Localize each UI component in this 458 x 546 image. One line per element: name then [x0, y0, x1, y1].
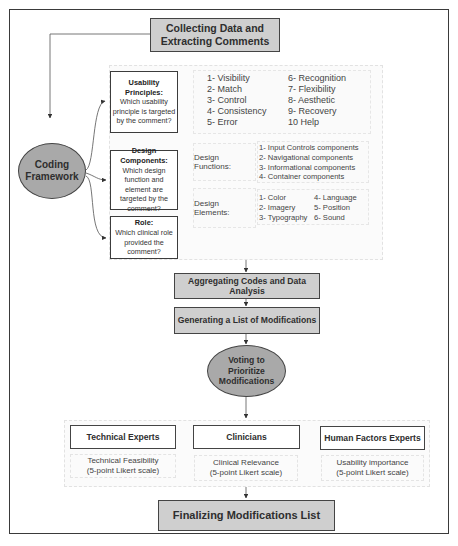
- voter-human-factors-criterion: Usability importance (5-point Likert sca…: [321, 455, 424, 481]
- voting-node: Voting to Prioritize Modifications: [207, 345, 286, 397]
- usability-principles-col2: 6- Recognition 7- Flexibility 8- Aesthet…: [288, 73, 368, 128]
- principle-item: 8- Aesthetic: [288, 95, 368, 106]
- role-title: Role:: [111, 218, 177, 228]
- principle-item: 9- Recovery: [288, 106, 368, 117]
- usability-principles-question: Which usability principle is targeted by…: [111, 97, 177, 126]
- design-function-item: 3- Informational components: [259, 163, 368, 173]
- step-collecting-data-label: Collecting Data and Extracting Comments: [151, 22, 279, 48]
- design-functions-label-box: Design Functions:: [193, 143, 256, 181]
- voter-clinicians: Clinicians: [193, 425, 300, 449]
- design-element-item: 5- Position: [314, 203, 369, 213]
- step-finalizing-modifications: Finalizing Modifications List: [158, 500, 335, 531]
- voter-human-factors-experts: Human Factors Experts: [320, 426, 425, 450]
- usability-principles-title: Usability Principles:: [111, 78, 177, 97]
- voter-title: Human Factors Experts: [324, 433, 420, 443]
- step-generating-modifications-label: Generating a List of Modifications: [178, 314, 316, 327]
- voter-title: Technical Experts: [87, 432, 160, 442]
- usability-principles-box: Usability Principles: Which usability pr…: [110, 71, 178, 133]
- voter-scale: (5-point Likert scale): [336, 468, 408, 479]
- voter-criterion: Usability importance: [336, 458, 408, 469]
- design-elements-col1: 1- Color 2- Imagery 3- Typography: [259, 193, 314, 222]
- design-components-box: Design Components: Which design function…: [110, 150, 178, 210]
- principle-item: 5- Error: [207, 117, 287, 128]
- principle-item: 7- Flexibility: [288, 84, 368, 95]
- design-element-item: 1- Color: [259, 193, 314, 203]
- voter-technical-criterion: Technical Feasibility (5-point Likert sc…: [70, 454, 176, 478]
- principle-item: 4- Consistency: [207, 106, 287, 117]
- principle-item: 6- Recognition: [288, 73, 368, 84]
- role-box: Role: Which clinical role provided the c…: [110, 216, 178, 259]
- coding-framework-node: Coding Framework: [18, 143, 86, 199]
- principle-item: 2- Match: [207, 84, 287, 95]
- design-element-item: 3- Typography: [259, 213, 314, 223]
- design-element-item: 2- Imagery: [259, 203, 314, 213]
- design-element-item: 4- Language: [314, 193, 369, 203]
- principle-item: 10 Help: [288, 117, 368, 128]
- principle-item: 1- Visibility: [207, 73, 287, 84]
- design-elements-label: Design Elements:: [194, 199, 255, 217]
- voter-technical-experts: Technical Experts: [70, 425, 176, 449]
- design-elements-col2: 4- Language 5- Position 6- Sound: [314, 193, 369, 222]
- design-function-item: 1- Input Controls components: [259, 143, 368, 153]
- voter-scale: (5-point Likert scale): [87, 466, 159, 477]
- principle-item: 3- Control: [207, 95, 287, 106]
- step-collecting-data: Collecting Data and Extracting Comments: [150, 18, 280, 52]
- design-element-item: 6- Sound: [314, 213, 369, 223]
- coding-framework-label: Coding Framework: [24, 159, 80, 184]
- design-function-item: 2- Navigational components: [259, 153, 368, 163]
- voter-title: Clinicians: [226, 432, 267, 442]
- step-aggregating-codes-label: Aggregating Codes and Data Analysis: [175, 276, 319, 297]
- voting-label: Voting to Prioritize Modifications: [217, 355, 277, 387]
- voter-scale: (5-point Likert scale): [210, 468, 282, 479]
- design-functions-label: Design Functions:: [194, 153, 255, 171]
- step-finalizing-modifications-label: Finalizing Modifications List: [173, 509, 320, 522]
- voter-criterion: Clinical Relevance: [213, 458, 279, 469]
- usability-principles-col1: 1- Visibility 2- Match 3- Control 4- Con…: [207, 73, 287, 128]
- step-generating-modifications: Generating a List of Modifications: [174, 307, 320, 334]
- role-question: Which clinical role provided the comment…: [111, 228, 177, 257]
- design-functions-list: 1- Input Controls components 2- Navigati…: [257, 141, 369, 183]
- design-elements-label-box: Design Elements:: [193, 188, 256, 228]
- design-components-title: Design Components:: [111, 146, 177, 165]
- voter-clinicians-criterion: Clinical Relevance (5-point Likert scale…: [194, 455, 298, 481]
- voter-criterion: Technical Feasibility: [87, 456, 158, 467]
- design-components-question: Which design function and element are ta…: [111, 166, 177, 214]
- step-aggregating-codes: Aggregating Codes and Data Analysis: [174, 273, 320, 299]
- design-function-item: 4- Container components: [259, 172, 368, 182]
